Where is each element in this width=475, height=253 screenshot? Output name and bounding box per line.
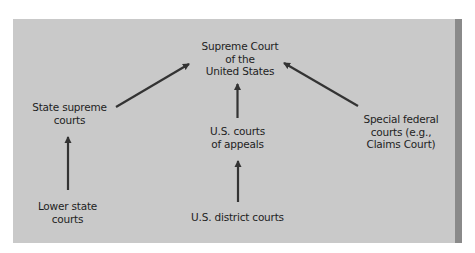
node-special-federal-courts: Special federal courts (e.g., Claims Cou…: [356, 113, 446, 151]
node-courts-of-appeals: U.S. courts of appeals: [195, 125, 280, 150]
arrow-state-supreme-to-supreme-court: [116, 64, 189, 107]
node-district-courts: U.S. district courts: [180, 211, 295, 224]
node-line: of appeals: [195, 138, 280, 151]
node-line: courts: [25, 213, 110, 226]
node-line: Special federal: [356, 113, 446, 126]
node-line: Claims Court): [356, 138, 446, 151]
arrow-special-federal-to-supreme-court: [284, 63, 358, 106]
node-state-supreme-courts: State supreme courts: [22, 101, 117, 126]
node-line: of the: [190, 53, 290, 66]
node-line: United States: [190, 65, 290, 78]
node-lower-state-courts: Lower state courts: [25, 200, 110, 225]
node-line: U.S. courts: [195, 125, 280, 138]
node-line: courts: [22, 114, 117, 127]
node-line: Supreme Court: [190, 40, 290, 53]
node-supreme-court: Supreme Court of the United States: [190, 40, 290, 78]
node-line: State supreme: [22, 101, 117, 114]
node-line: U.S. district courts: [180, 211, 295, 224]
node-line: courts (e.g.,: [356, 126, 446, 139]
node-line: Lower state: [25, 200, 110, 213]
